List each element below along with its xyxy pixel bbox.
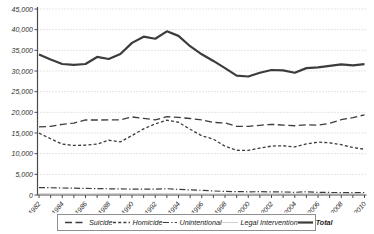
x-axis-label: 2006: [305, 200, 321, 213]
homicide-line-sample-icon: [113, 219, 130, 226]
x-axis-label: 2000: [235, 200, 251, 213]
y-axis-label: 40,000: [12, 26, 34, 33]
legend-item-legal-intervention: Legal Intervention: [222, 218, 298, 227]
x-axis-label: 1990: [120, 200, 135, 213]
chart-plot-area: 05,00010,00015,00020,00025,00030,00035,0…: [0, 0, 374, 213]
x-axis-label: 1994: [166, 200, 181, 213]
legend-item-unintentional: Unintentional: [163, 218, 222, 227]
firearm-deaths-line-chart: 05,00010,00015,00020,00025,00030,00035,0…: [0, 0, 374, 213]
suicide-line-sample-icon: [65, 219, 86, 226]
x-axis-label: 2004: [282, 200, 298, 213]
x-axis-label: 1982: [27, 200, 42, 213]
series-line-unintentional: [39, 188, 365, 193]
y-axis-label: 25,000: [11, 88, 34, 95]
y-axis-label: 15,000: [12, 130, 34, 137]
x-axis-label: 1986: [73, 200, 88, 213]
x-axis-label: 2002: [259, 200, 275, 213]
legend-item-total: Total: [298, 218, 333, 227]
series-line-total: [39, 31, 365, 76]
legend-label-homicide: Homicide: [133, 218, 163, 227]
legend-item-suicide: Suicide: [65, 218, 113, 227]
legend-label-legal-intervention: Legal Intervention: [241, 218, 298, 227]
unintentional-line-sample-icon: [163, 219, 177, 226]
series-line-suicide: [39, 115, 365, 127]
y-axis-label: 20,000: [11, 109, 34, 116]
x-axis-label: 1996: [189, 200, 204, 213]
y-axis-label: 45,000: [12, 6, 34, 13]
total-line-sample-icon: [298, 219, 313, 226]
y-axis-label: 10,000: [12, 150, 34, 157]
legend-label-total: Total: [316, 218, 333, 227]
y-axis-label: 30,000: [12, 68, 34, 75]
x-axis-label: 1984: [50, 200, 65, 213]
x-axis-label: 2010: [352, 200, 368, 213]
legend-label-suicide: Suicide: [89, 218, 113, 227]
chart-legend: Suicide Homicide Unintentional Legal Int…: [57, 214, 316, 231]
x-axis-label: 2008: [328, 200, 344, 213]
legend-item-homicide: Homicide: [113, 218, 163, 227]
y-axis-label: 35,000: [12, 47, 34, 54]
legend-label-unintentional: Unintentional: [180, 218, 222, 227]
y-axis-label: 0: [29, 192, 33, 199]
x-axis-label: 1992: [143, 200, 158, 213]
legal-intervention-line-sample-icon: [222, 219, 238, 226]
x-axis-label: 1998: [213, 200, 228, 213]
y-axis-label: 5,000: [15, 171, 33, 178]
x-axis-label: 1988: [96, 200, 111, 213]
